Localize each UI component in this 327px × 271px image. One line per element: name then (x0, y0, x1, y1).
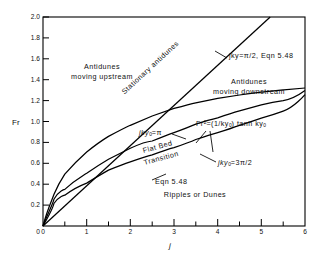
fr-formula-mid: =(1/ky (206, 119, 228, 128)
curve-label-eqn-548: Eqn 5.48 (155, 177, 187, 187)
y-tick-label: 2.0 (18, 13, 40, 20)
fr-formula-mid-2: ) tanh ky (232, 119, 264, 128)
x-tick-label: 3 (164, 228, 184, 235)
x-tick-label: 1 (77, 228, 97, 235)
figure-root: 2.0 1.8 1.6 1.4 1.2 1.0 0.8 0.6 0.4 0.2 … (0, 0, 327, 271)
curve-label-jky0-3pi2: jky0=3π/2 (218, 158, 252, 169)
series-jky0-3pi2 (43, 95, 305, 226)
x-axis-major-ticks (87, 219, 262, 226)
x-tick-label: 0 (33, 228, 53, 235)
y-tick-label: 0.4 (18, 180, 40, 187)
y-tick-label: 1.8 (18, 34, 40, 41)
fr-formula-fr: Fr (196, 119, 204, 128)
curve-label-jky-pi-half: jky=π/2, Eqn 5.48 (229, 51, 293, 61)
y-tick-label: 0.6 (18, 159, 40, 166)
region-label-ripples-or-dunes: Ripples or Dunes (140, 190, 250, 200)
region-label-antidunes-downstream-line2: moving downstream (190, 87, 308, 97)
jky0-3pi2-value: =3π/2 (231, 158, 252, 167)
y-tick-label: 1.0 (18, 118, 40, 125)
region-label-antidunes-downstream-line1: Antidunes (196, 77, 302, 87)
y-axis-label: Fr (12, 118, 20, 127)
jky0-3pi2-symbol: jky (218, 158, 228, 167)
x-tick-label: 4 (208, 228, 228, 235)
y-tick-label: 0.8 (18, 138, 40, 145)
x-tick-label: 2 (120, 228, 140, 235)
fr-formula-sub-2: 0 (263, 123, 266, 128)
y-tick-label: 1.4 (18, 76, 40, 83)
y-tick-label: 1.6 (18, 55, 40, 62)
jky0-pi-symbol: jky (139, 128, 149, 137)
curve-label-fr-formula: Fr2=(1/ky0) tanh ky0 (196, 119, 266, 130)
y-tick-label: 0.2 (18, 201, 40, 208)
jky0-pi-value: =π (152, 128, 162, 137)
y-tick-label: 1.2 (18, 97, 40, 104)
x-tick-label: 5 (251, 228, 271, 235)
y-axis-ticks (43, 17, 49, 205)
x-axis-label: j (169, 241, 171, 250)
curve-label-jky0-pi: jky0=π (139, 128, 162, 139)
x-tick-label: 6 (295, 228, 315, 235)
